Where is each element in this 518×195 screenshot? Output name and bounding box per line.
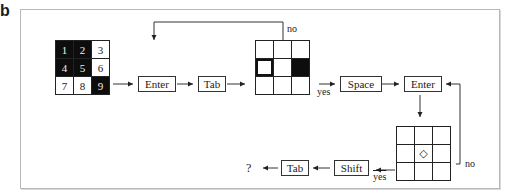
grid-cell — [415, 163, 433, 181]
grid-cell — [415, 127, 433, 145]
grid-cell: 7 — [56, 77, 74, 95]
grid-cell — [274, 77, 292, 95]
grid-cell: 3 — [92, 41, 110, 59]
diamond-marker-icon: ◇ — [415, 145, 433, 163]
grid-cell — [433, 127, 451, 145]
filled-grid-cell — [292, 59, 310, 77]
grid-cell — [292, 77, 310, 95]
grid-cell — [433, 163, 451, 181]
grid-cell — [433, 145, 451, 163]
middle-grid — [255, 40, 310, 95]
enter-key: Enter — [404, 76, 442, 92]
branch-label-yes-negated: yes — [373, 171, 386, 182]
grid-cell — [274, 41, 292, 59]
grid-cell — [292, 41, 310, 59]
space-key: Space — [340, 76, 382, 92]
shift-key: Shift — [334, 160, 369, 176]
bottom-grid: ◇ — [396, 126, 451, 181]
grid-cell — [256, 77, 274, 95]
grid-cell — [397, 127, 415, 145]
grid-cell — [256, 41, 274, 59]
grid-cell: 1 — [56, 41, 74, 59]
branch-label-no-right: no — [465, 158, 475, 169]
grid-cell — [397, 145, 415, 163]
enter-key: Enter — [138, 76, 176, 92]
grid-cell — [397, 163, 415, 181]
branch-label-yes: yes — [317, 86, 330, 97]
grid-cell: 9 — [92, 77, 110, 95]
grid-cell: 5 — [74, 59, 92, 77]
grid-cell — [274, 59, 292, 77]
grid-cell: 6 — [92, 59, 110, 77]
grid-cell: 4 — [56, 59, 74, 77]
grid-cell: 2 — [74, 41, 92, 59]
grid-cell: 8 — [74, 77, 92, 95]
branch-label-no-top: no — [287, 23, 297, 34]
tab-key: Tab — [281, 160, 309, 176]
selected-grid-cell — [256, 59, 274, 77]
start-grid: 1 2 3 4 5 6 7 8 9 — [55, 40, 110, 95]
result-unknown: ? — [246, 161, 251, 176]
tab-key: Tab — [198, 76, 226, 92]
